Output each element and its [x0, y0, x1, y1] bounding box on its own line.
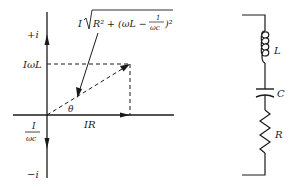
figure: +i −i IωL I ωc IR θ I R² + (ωL − 1 ωc )²: [0, 0, 299, 188]
positive-imag-arrow-icon: [45, 34, 50, 45]
angle-label: θ: [68, 104, 74, 114]
negative-imag-label: −i: [27, 169, 39, 180]
bottom-wire: [242, 153, 265, 175]
resultant-vector: [47, 66, 127, 115]
resistive-arrow-icon: [120, 113, 130, 118]
magnitude-label: I R² + (ωL − 1 ωc )²: [77, 10, 173, 32]
top-wire: [242, 15, 265, 31]
inductive-label: IωL: [22, 59, 42, 70]
positive-imag-label: +i: [27, 29, 39, 40]
magnitude-fraction-numerator: 1: [156, 14, 160, 22]
negative-imag-arrow-icon: [45, 138, 50, 149]
magnitude-fraction-denominator: ωc: [150, 24, 160, 32]
magnitude-suffix: )²: [164, 18, 173, 29]
rlc-circuit: L C R: [242, 15, 285, 175]
phasor-diagram: +i −i IωL I ωc IR θ I R² + (ωL − 1 ωc )²: [13, 10, 174, 180]
magnitude-radicand: R² + (ωL −: [92, 18, 147, 29]
inductor-symbol: [261, 31, 269, 63]
capacitor-label: C: [277, 88, 285, 99]
magnitude-pointer: [79, 33, 98, 92]
resistor-symbol: [260, 110, 270, 153]
inductor-label: L: [273, 45, 281, 56]
capacitive-numerator: I: [31, 121, 36, 131]
resistor-label: R: [274, 129, 283, 140]
capacitive-denominator: ωc: [26, 134, 37, 143]
resistive-label: IR: [83, 119, 96, 130]
resultant-arrow-icon: [120, 64, 130, 72]
magnitude-prefix: I: [77, 18, 83, 29]
